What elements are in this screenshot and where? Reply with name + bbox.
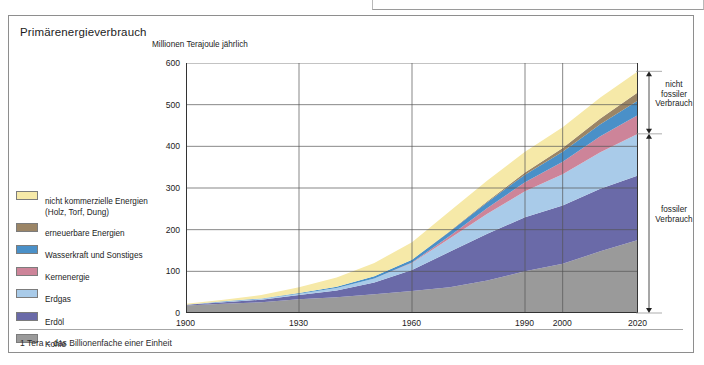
footnote-text: 1 Tera = das Billionenfache einer Einhei…: [20, 338, 172, 348]
chart-legend: nicht kommerzielle Energien(Holz, Torf, …: [16, 190, 161, 355]
legend-label-wrap: Kernenergie: [45, 266, 90, 284]
y-tick-label: 0: [152, 308, 180, 318]
legend-swatch: [16, 191, 38, 200]
x-tick-label: 2000: [553, 318, 572, 328]
legend-label: Erdgas: [45, 295, 71, 304]
legend-label: Erdöl: [45, 318, 64, 327]
legend-label-wrap: Wasserkraft und Sonstiges: [45, 244, 143, 262]
y-axis-title: Millionen Terajoule jährlich: [152, 40, 248, 49]
legend-label: Wasserkraft und Sonstiges: [45, 251, 143, 260]
x-tick-label: 1900: [176, 318, 195, 328]
legend-label-wrap: Erdöl: [45, 311, 64, 329]
y-tick-label: 200: [152, 225, 180, 235]
chart-svg: [186, 63, 638, 313]
legend-label: erneuerbare Energien: [45, 229, 125, 238]
legend-item: erneuerbare Energien: [16, 222, 161, 240]
x-tick-label: 1960: [402, 318, 421, 328]
legend-swatch: [16, 267, 38, 276]
legend-swatch: [16, 223, 38, 232]
legend-label-wrap: nicht kommerzielle Energien(Holz, Torf, …: [45, 190, 148, 218]
top-panel-fragment: [372, 0, 704, 10]
legend-item: Kernenergie: [16, 266, 161, 284]
legend-label-wrap: erneuerbare Energien: [45, 222, 125, 240]
page-title: Primärenergieverbrauch: [20, 26, 147, 38]
y-tick-label: 500: [152, 100, 180, 110]
legend-label: nicht kommerzielle Energien: [45, 197, 148, 206]
legend-label: Kernenergie: [45, 273, 90, 282]
legend-swatch: [16, 289, 38, 298]
legend-swatch: [16, 245, 38, 254]
bracket-arrows: [636, 60, 662, 316]
arrow-fossil: [646, 134, 652, 313]
stacked-area-plot: [186, 63, 638, 313]
y-tick-label: 100: [152, 266, 180, 276]
legend-swatch: [16, 312, 38, 321]
legend-label-wrap: Erdgas: [45, 288, 71, 306]
x-tick-label: 1990: [515, 318, 534, 328]
legend-item: Erdgas: [16, 288, 161, 306]
x-tick-label: 1930: [289, 318, 308, 328]
y-tick-label: 300: [152, 183, 180, 193]
y-tick-label: 400: [152, 141, 180, 151]
x-tick-label: 2020: [628, 318, 647, 328]
legend-item: Wasserkraft und Sonstiges: [16, 244, 161, 262]
legend-item: nicht kommerzielle Energien(Holz, Torf, …: [16, 190, 161, 218]
legend-sublabel: (Holz, Torf, Dung): [45, 208, 148, 218]
arrow-non-fossil: [646, 71, 652, 134]
legend-item: Erdöl: [16, 311, 161, 329]
y-tick-label: 600: [152, 58, 180, 68]
